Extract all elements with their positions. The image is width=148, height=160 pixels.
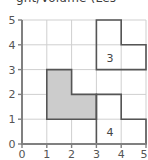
- x-tick-label-4: 4: [118, 148, 125, 160]
- shaded-l-shape: [47, 70, 97, 120]
- y-tick-label-0: 0: [9, 138, 16, 151]
- grid-shapes-figure: ght/Volume (Les: [0, 0, 147, 160]
- x-tick-label-2: 2: [68, 148, 75, 160]
- y-tick-label-2: 2: [9, 88, 16, 101]
- shape-three-label: 3: [107, 52, 114, 65]
- y-tick-labels: 0 1 2 3 4 5: [9, 14, 16, 151]
- shape-four-label: 4: [107, 126, 114, 139]
- x-tick-label-1: 1: [43, 148, 50, 160]
- grid-lines: [22, 20, 146, 144]
- axis-lines: [21, 20, 146, 145]
- y-tick-label-3: 3: [9, 64, 16, 77]
- x-tick-label-0: 0: [19, 148, 26, 160]
- y-tick-label-5: 5: [9, 14, 16, 27]
- axis-ticks: [18, 20, 146, 148]
- y-tick-label-4: 4: [9, 39, 16, 52]
- x-tick-label-5: 5: [141, 148, 148, 160]
- plot-area: 0 1 2 3 4 5 0 1 2 3 4 5 3 4: [0, 0, 147, 160]
- x-tick-labels: 0 1 2 3 4 5: [19, 148, 148, 160]
- y-tick-label-1: 1: [9, 113, 16, 126]
- x-tick-label-3: 3: [93, 148, 100, 160]
